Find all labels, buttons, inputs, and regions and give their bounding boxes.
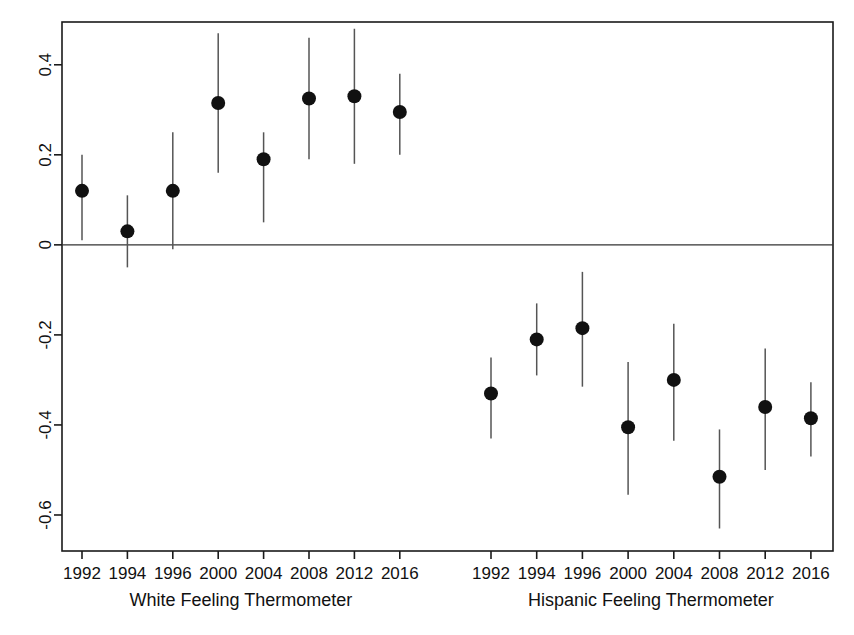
y-axis-tick-label: 0 [37, 240, 56, 249]
x-axis-tick-label: 2004 [655, 564, 693, 583]
y-axis-tick-label: 0.2 [37, 143, 56, 167]
data-point[interactable] [804, 411, 818, 425]
x-axis-tick-label: 2008 [290, 564, 328, 583]
data-point[interactable] [484, 386, 498, 400]
chart-canvas: 0.40.20-0.2-0.4-0.6199219941996200020042… [0, 0, 854, 635]
y-axis-tick-label: -0.6 [37, 500, 56, 529]
x-axis-title: Hispanic Feeling Thermometer [528, 590, 774, 610]
data-point[interactable] [758, 400, 772, 414]
x-axis-tick-label: 2016 [792, 564, 830, 583]
data-point[interactable] [75, 184, 89, 198]
white-panel: 19921994199620002004200820122016White Fe… [63, 29, 419, 610]
x-axis-tick-label: 1996 [563, 564, 601, 583]
y-axis-tick-label: 0.4 [37, 53, 56, 77]
x-axis-tick-label: 1994 [518, 564, 556, 583]
x-axis-tick-label: 2008 [701, 564, 739, 583]
chart-figure: 0.40.20-0.2-0.4-0.6199219941996200020042… [0, 0, 854, 635]
data-point[interactable] [530, 332, 544, 346]
data-point[interactable] [393, 105, 407, 119]
x-axis-tick-label: 1992 [472, 564, 510, 583]
data-point[interactable] [713, 470, 727, 484]
x-axis-title: White Feeling Thermometer [130, 590, 353, 610]
hispanic-panel: 19921994199620002004200820122016Hispanic… [472, 272, 830, 610]
y-axis-tick-label: -0.4 [37, 410, 56, 439]
x-axis-tick-label: 2012 [746, 564, 784, 583]
x-axis-tick-label: 2016 [381, 564, 419, 583]
y-axis-tick-label: -0.2 [37, 320, 56, 349]
x-axis-tick-label: 1996 [154, 564, 192, 583]
x-axis-tick-label: 2012 [335, 564, 373, 583]
data-point[interactable] [302, 92, 316, 106]
x-axis-tick-label: 1992 [63, 564, 101, 583]
x-axis-tick-label: 2000 [199, 564, 237, 583]
data-point[interactable] [347, 89, 361, 103]
data-point[interactable] [120, 224, 134, 238]
data-point[interactable] [211, 96, 225, 110]
x-axis-tick-label: 2004 [245, 564, 283, 583]
x-axis-tick-label: 2000 [609, 564, 647, 583]
data-point[interactable] [257, 152, 271, 166]
x-axis-tick-label: 1994 [108, 564, 146, 583]
data-point[interactable] [667, 373, 681, 387]
data-point[interactable] [621, 420, 635, 434]
data-point[interactable] [575, 321, 589, 335]
data-point[interactable] [166, 184, 180, 198]
